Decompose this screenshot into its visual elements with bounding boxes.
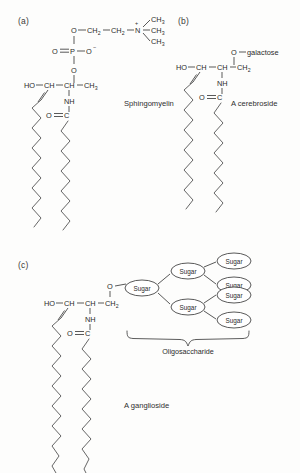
amide-atom-c: NH <box>85 315 96 324</box>
c3-atom-c: CH2 <box>105 299 119 309</box>
link-o-atom-c: O <box>107 282 113 291</box>
sugar-node-branch-2-label: Sugar <box>179 304 197 312</box>
c1-atom-c: CH <box>64 299 75 308</box>
sugar-node-root-label: Sugar <box>133 285 151 293</box>
sugar-node-terminal-1-label: Sugar <box>225 258 243 266</box>
carbonyl-o-atom-c: O <box>67 329 73 338</box>
sugar-node-terminal-4-label: Sugar <box>225 317 243 325</box>
oligosaccharide-bracket-label: Oligosaccharide <box>162 347 214 356</box>
panel-c-structure: HO CH CH CH2 O NH O C Sugar Sugar <box>0 0 300 473</box>
carbonyl-c-atom-c: C <box>85 329 91 338</box>
sugar-node-branch-1-label: Sugar <box>179 268 197 276</box>
c2-atom-c: CH <box>85 299 96 308</box>
sugar-node-terminal-3-label: Sugar <box>225 292 243 300</box>
sphingolipid-figure: (a) Sphingomyelin O CH2 CH2 N + CH3 CH3 … <box>0 0 300 473</box>
hydroxyl-atom-c: HO <box>44 299 55 308</box>
